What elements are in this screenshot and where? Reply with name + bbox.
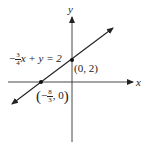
coordinate-plane <box>0 0 141 146</box>
point-x-intercept <box>39 80 43 84</box>
equation-rest: x + y = 2 <box>21 52 62 64</box>
x-axis-label: x <box>136 77 141 88</box>
point-label-x-intercept: (−83, 0) <box>36 89 69 104</box>
equation-label: −34x + y = 2 <box>9 52 62 67</box>
y-axis-label: y <box>68 4 73 15</box>
point-label-y-intercept: (0, 2) <box>74 63 98 74</box>
